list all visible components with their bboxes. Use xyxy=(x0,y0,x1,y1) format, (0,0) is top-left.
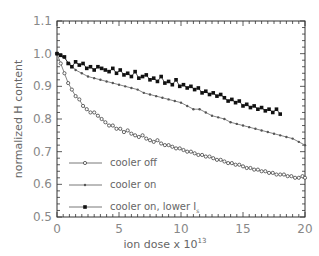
data-point xyxy=(115,127,118,130)
data-point xyxy=(245,166,248,169)
data-point xyxy=(119,127,122,130)
data-point xyxy=(267,131,269,133)
data-point xyxy=(70,65,74,69)
data-point xyxy=(193,88,197,92)
data-point xyxy=(279,134,281,136)
series-cooler-on xyxy=(56,52,306,146)
data-point xyxy=(223,96,227,100)
data-point xyxy=(155,95,157,97)
data-point xyxy=(161,97,163,99)
data-point xyxy=(252,104,256,108)
data-point xyxy=(182,148,185,151)
y-tick-label: 1.1 xyxy=(33,14,52,28)
data-point xyxy=(112,82,114,84)
x-axis-label-text: ion dose x 10 xyxy=(124,238,198,251)
data-point xyxy=(59,62,62,65)
data-point xyxy=(159,75,163,79)
data-point xyxy=(115,71,119,75)
data-point xyxy=(223,160,226,163)
data-point xyxy=(148,139,151,142)
data-point xyxy=(171,145,174,148)
data-point xyxy=(66,62,70,66)
data-point xyxy=(204,89,208,93)
data-point xyxy=(304,144,306,146)
data-point xyxy=(278,112,282,116)
series-cooler-on-lower-i xyxy=(55,52,282,116)
data-point xyxy=(212,157,215,160)
data-point xyxy=(144,73,148,77)
data-point xyxy=(186,105,188,107)
data-point xyxy=(285,136,287,138)
data-point xyxy=(107,70,111,74)
data-point xyxy=(126,129,129,132)
data-point xyxy=(100,117,103,120)
data-point xyxy=(130,87,132,89)
data-point xyxy=(236,123,238,125)
data-point xyxy=(267,171,270,174)
data-point xyxy=(248,126,250,128)
data-point xyxy=(208,93,212,97)
data-point xyxy=(185,86,189,90)
data-point xyxy=(148,78,152,82)
data-point xyxy=(96,65,100,69)
data-point xyxy=(93,111,96,114)
data-point xyxy=(186,150,189,153)
data-point xyxy=(208,155,211,158)
data-point xyxy=(63,72,66,75)
data-point xyxy=(63,55,67,59)
data-point xyxy=(230,98,234,102)
data-point xyxy=(192,108,194,110)
data-point xyxy=(260,170,263,173)
data-point xyxy=(178,85,182,89)
data-point xyxy=(141,75,145,79)
data-point xyxy=(85,67,89,71)
data-point xyxy=(92,68,96,72)
data-point xyxy=(118,68,122,72)
data-point xyxy=(111,67,115,71)
data-point xyxy=(174,78,178,82)
data-point xyxy=(291,137,293,139)
legend-marker xyxy=(83,205,87,209)
data-point xyxy=(200,91,204,95)
data-point xyxy=(267,107,271,111)
data-point xyxy=(160,142,163,145)
data-point xyxy=(107,124,110,127)
data-point xyxy=(205,111,207,113)
data-point xyxy=(290,175,293,178)
x-tick-label: 10 xyxy=(173,222,188,236)
data-point xyxy=(74,60,78,64)
x-tick-label: 15 xyxy=(235,222,250,236)
data-point xyxy=(245,103,249,107)
y-tick-labels: 0.50.60.70.80.91.01.1 xyxy=(33,14,52,224)
data-point xyxy=(156,80,160,84)
data-point xyxy=(211,115,213,117)
data-point xyxy=(174,100,176,102)
data-point xyxy=(100,67,104,71)
legend-label-subscript: s xyxy=(196,207,199,214)
data-point xyxy=(111,124,114,127)
series-layer xyxy=(55,52,306,180)
legend-marker xyxy=(83,161,86,164)
data-point xyxy=(122,130,125,133)
data-point xyxy=(204,155,207,158)
data-point xyxy=(279,173,282,176)
x-tick-label: 20 xyxy=(297,222,312,236)
data-point xyxy=(105,80,107,82)
data-point xyxy=(234,163,237,166)
data-point xyxy=(241,165,244,168)
data-point xyxy=(67,81,70,84)
data-point xyxy=(78,98,81,101)
data-point xyxy=(167,144,170,147)
data-point xyxy=(264,109,268,113)
data-point xyxy=(99,79,101,81)
data-point xyxy=(271,171,274,174)
data-point xyxy=(215,158,218,161)
data-point xyxy=(124,85,126,87)
data-point xyxy=(104,121,107,124)
y-axis-label: normalized H content xyxy=(12,59,25,178)
data-point xyxy=(163,144,166,147)
data-point xyxy=(78,63,82,67)
data-point xyxy=(256,168,259,171)
data-point xyxy=(219,158,222,161)
x-tick-label: 0 xyxy=(53,222,61,236)
